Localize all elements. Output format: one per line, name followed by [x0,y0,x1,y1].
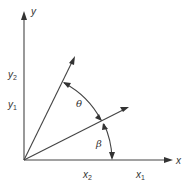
theta-arc [63,82,102,121]
beta-label: β [95,138,102,149]
y-axis-label: y [30,6,37,17]
theta-arc-start-arrow-icon [63,82,71,88]
y-axis [21,11,27,160]
x2-label: x2 [82,169,92,181]
x1-label: x1 [135,169,145,181]
vector-2-arrow-icon [69,56,75,65]
beta-arc [102,123,115,160]
x-axis-label: x [175,155,182,166]
x-axis-arrow-icon [164,157,173,163]
rotation-diagram: y x y2 y1 x2 x1 θ β [0,0,189,182]
x-axis [24,157,173,163]
vector-2 [24,56,75,160]
y-axis-arrow-icon [21,11,27,20]
y2-label: y2 [7,69,17,81]
beta-arc-start-arrow-icon [102,123,108,130]
beta-arc-end-arrow-icon [109,152,115,160]
theta-arc-end-arrow-icon [95,114,102,121]
theta-label: θ [76,98,82,109]
y1-label: y1 [7,99,17,111]
